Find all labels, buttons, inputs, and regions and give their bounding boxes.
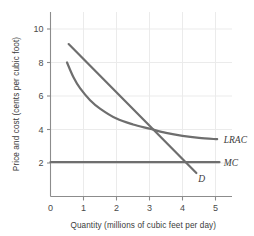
d-label: D: [197, 174, 205, 184]
chart-canvas: 246810 012345 LRACMCD Price and cost (ce…: [0, 0, 254, 236]
x-axis-tick-label: 1: [81, 203, 86, 213]
data-series-group: [51, 44, 220, 173]
x-axis-tick-label: 5: [213, 203, 218, 213]
x-axis-tick-label: 3: [147, 203, 152, 213]
y-axis-ticks-group: 246810: [33, 24, 50, 168]
gridlines-group: [51, 12, 233, 197]
y-axis-tick-label: 4: [38, 125, 43, 135]
x-axis-ticks-group: 012345: [48, 197, 218, 213]
y-axis-tick-label: 10: [33, 24, 43, 34]
y-axis-tick-label: 6: [38, 91, 43, 101]
x-axis-tick-label: 0: [48, 203, 53, 213]
y-axis-tick-label: 8: [38, 58, 43, 68]
lrac-label: LRAC: [223, 135, 248, 145]
chart-figure: 246810 012345 LRACMCD Price and cost (ce…: [0, 0, 254, 236]
x-axis-tick-label: 4: [180, 203, 185, 213]
axes-group: [51, 12, 233, 197]
x-axis-tick-label: 2: [114, 203, 119, 213]
y-axis-tick-label: 2: [38, 158, 43, 168]
series-line-lrac: [67, 63, 217, 140]
series-line-d: [69, 44, 197, 173]
series-labels-group: LRACMCD: [197, 135, 247, 185]
y-axis-title: Price and cost (cents per cubic foot): [12, 37, 21, 171]
x-axis-title: Quantity (millions of cubic feet per day…: [70, 221, 216, 230]
mc-label: MC: [223, 158, 239, 168]
